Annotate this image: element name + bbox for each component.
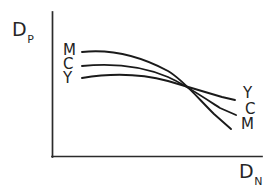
curve-c	[82, 65, 236, 115]
curve-end-label-y: Y	[243, 86, 252, 101]
y-axis-label-base: D	[12, 18, 27, 40]
x-axis-label-base: D	[239, 160, 254, 182]
y-axis-label-subscript: P	[27, 33, 34, 46]
x-axis-label: DN	[239, 162, 262, 184]
curve-start-label-y: Y	[63, 71, 72, 86]
y-axis-label: DP	[12, 20, 34, 42]
curve-y	[82, 75, 235, 100]
curve-m	[82, 51, 231, 129]
figure-container: DP DN M C Y Y C M	[0, 0, 278, 187]
plot-canvas	[0, 0, 278, 187]
x-axis-label-subscript: N	[254, 175, 262, 187]
curve-end-label-m: M	[241, 117, 254, 132]
